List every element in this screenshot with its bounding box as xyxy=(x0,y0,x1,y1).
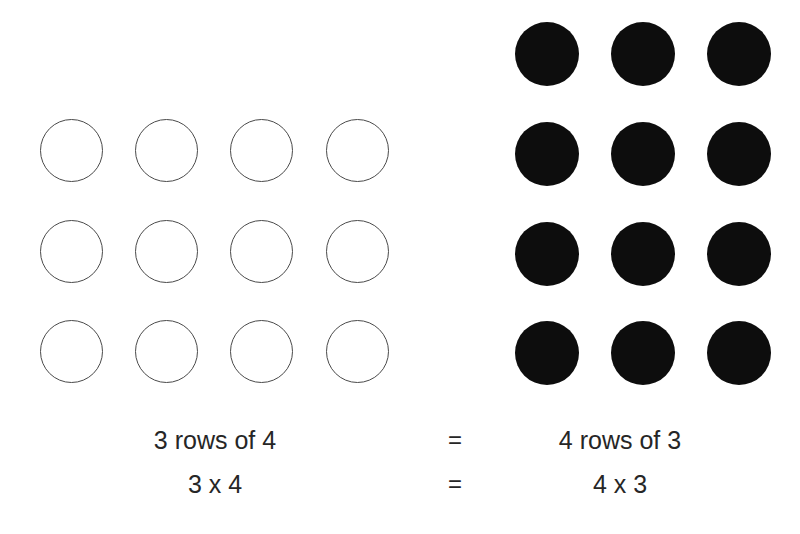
open-counter xyxy=(326,320,389,383)
caption-row-expression: 3 x 4 = 4 x 3 xyxy=(0,462,800,506)
open-counter xyxy=(230,220,293,283)
open-counter xyxy=(230,119,293,182)
filled-counter xyxy=(611,122,675,186)
open-counter xyxy=(230,320,293,383)
filled-counter xyxy=(611,321,675,385)
open-counter xyxy=(40,320,103,383)
filled-counter xyxy=(707,122,771,186)
caption-left-expression: 3 x 4 xyxy=(60,462,370,506)
filled-counter-row-2 xyxy=(515,122,771,185)
filled-counters-array xyxy=(515,22,771,385)
open-counter xyxy=(326,119,389,182)
open-counter-row-1 xyxy=(40,119,428,182)
caption-right-words: 4 rows of 3 xyxy=(500,418,740,462)
filled-counter xyxy=(611,222,675,286)
open-counter xyxy=(40,220,103,283)
filled-counter xyxy=(611,22,675,86)
filled-counter xyxy=(707,22,771,86)
equals-sign-words: = xyxy=(420,418,490,462)
caption-block: 3 rows of 4 = 4 rows of 3 3 x 4 = 4 x 3 xyxy=(0,418,800,518)
filled-counter xyxy=(515,321,579,385)
filled-counter xyxy=(515,222,579,286)
open-counter xyxy=(40,119,103,182)
caption-left-words: 3 rows of 4 xyxy=(60,418,370,462)
filled-counter-row-3 xyxy=(515,222,771,285)
open-counter xyxy=(135,220,198,283)
open-counter xyxy=(135,119,198,182)
filled-counter xyxy=(707,222,771,286)
open-counters-array xyxy=(40,119,428,382)
open-counter-row-2 xyxy=(40,220,428,283)
filled-counter-row-4 xyxy=(515,321,771,384)
filled-counter xyxy=(707,321,771,385)
caption-right-expression: 4 x 3 xyxy=(500,462,740,506)
diagram-canvas: 3 rows of 4 = 4 rows of 3 3 x 4 = 4 x 3 xyxy=(0,0,800,534)
filled-counter xyxy=(515,122,579,186)
caption-row-words: 3 rows of 4 = 4 rows of 3 xyxy=(0,418,800,462)
open-counter xyxy=(135,320,198,383)
open-counter xyxy=(326,220,389,283)
open-counter-row-3 xyxy=(40,320,428,383)
filled-counter xyxy=(515,22,579,86)
filled-counter-row-1 xyxy=(515,22,771,85)
equals-sign-expression: = xyxy=(420,462,490,506)
